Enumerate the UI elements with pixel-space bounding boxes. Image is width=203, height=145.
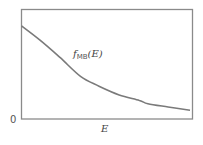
plot-frame <box>22 10 193 120</box>
y-origin-label: 0 <box>10 114 16 125</box>
fmb-curve <box>22 26 191 110</box>
curve-label-arg: (E) <box>88 48 103 59</box>
curve-label: fMB(E) <box>72 48 103 61</box>
curve-label-subscript: MB <box>77 53 88 61</box>
chart: 0 E fMB(E) <box>0 0 203 145</box>
x-axis-label: E <box>100 123 109 134</box>
